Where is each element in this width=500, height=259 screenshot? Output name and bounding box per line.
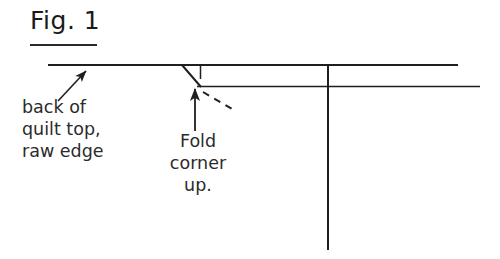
label-line-2: quilt top, xyxy=(22,118,104,140)
figure-container: Fig. 1 back of quilt top, raw edge xyxy=(0,0,500,259)
label-line-1: back of xyxy=(22,96,104,118)
back-of-quilt-top-label: back of quilt top, raw edge xyxy=(22,96,104,163)
fold-corner-up-label: Fold corner up. xyxy=(162,130,234,197)
label-line-3: up. xyxy=(162,174,234,196)
label-line-1: Fold xyxy=(162,130,234,152)
folded-corner-dashed-line xyxy=(203,92,234,110)
fold-diagonal-line xyxy=(182,65,201,87)
label-line-3: raw edge xyxy=(22,140,104,162)
label-line-2: corner xyxy=(162,152,234,174)
